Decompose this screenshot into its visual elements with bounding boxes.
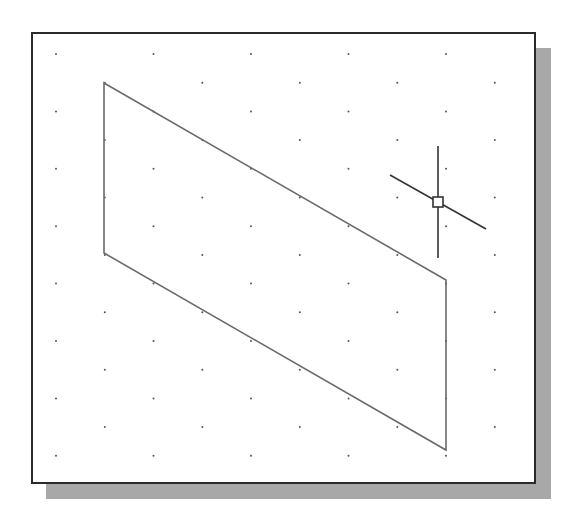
grid-dot [494,369,496,371]
drawing-layer[interactable] [0,0,567,526]
grid-dot [201,426,203,428]
grid-dot [201,254,203,256]
grid-dot [445,225,447,227]
grid-dot [55,340,57,342]
grid-dot [348,397,350,399]
grid-dot [250,283,252,285]
grid-dot [299,369,301,371]
pickbox-icon [433,197,443,207]
grid-dot [153,168,155,170]
grid-dot [250,397,252,399]
grid-dot [153,397,155,399]
grid-dot [396,139,398,141]
grid-dot [494,82,496,84]
grid-dot [445,168,447,170]
grid-dot [348,53,350,55]
grid-dot [201,82,203,84]
grid-dot [445,110,447,112]
grid-dot [104,369,106,371]
grid-dot [494,197,496,199]
grid-dot [396,369,398,371]
grid-dot [250,455,252,457]
grid-dot [250,110,252,112]
grid-dot [396,82,398,84]
grid-dot [201,311,203,313]
grid-dot [55,53,57,55]
grid-dot [250,53,252,55]
grid-dot [250,225,252,227]
grid-dot [494,139,496,141]
grid-dot [348,168,350,170]
grid-dot [153,455,155,457]
grid-dot [348,283,350,285]
grid-dot [348,455,350,457]
grid-dot [299,311,301,313]
isometric-grid-dots [55,53,496,457]
grid-dot [396,197,398,199]
grid-dot [396,426,398,428]
grid-dot [299,82,301,84]
grid-dot [153,283,155,285]
grid-dot [348,110,350,112]
grid-dot [55,455,57,457]
grid-dot [55,283,57,285]
grid-dot [494,311,496,313]
grid-dot [445,53,447,55]
grid-dot [299,139,301,141]
grid-dot [201,197,203,199]
grid-dot [299,254,301,256]
grid-dot [153,340,155,342]
crosshair-cursor-icon [390,146,486,258]
grid-dot [201,369,203,371]
grid-dot [494,254,496,256]
grid-dot [55,397,57,399]
grid-dot [348,225,350,227]
grid-dot [250,340,252,342]
grid-dot [55,110,57,112]
grid-dot [55,225,57,227]
grid-dot [104,426,106,428]
grid-dot [445,455,447,457]
grid-dot [348,340,350,342]
grid-dot [153,53,155,55]
grid-dot [104,311,106,313]
grid-dot [299,426,301,428]
grid-dot [396,254,398,256]
grid-dot [55,168,57,170]
isometric-parallelogram[interactable] [104,83,446,450]
grid-dot [396,311,398,313]
grid-dot [494,426,496,428]
grid-dot [153,225,155,227]
